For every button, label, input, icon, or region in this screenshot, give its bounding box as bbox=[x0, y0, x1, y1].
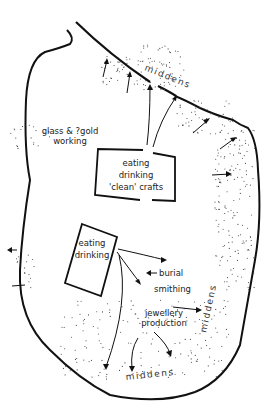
midden-dot bbox=[110, 77, 111, 78]
midden-dot bbox=[235, 168, 236, 169]
midden-dot bbox=[220, 182, 221, 183]
midden-dot bbox=[247, 228, 248, 229]
midden-dot bbox=[169, 84, 170, 85]
midden-dot bbox=[227, 191, 228, 192]
midden-dot bbox=[218, 226, 219, 227]
midden-dot bbox=[128, 342, 129, 343]
midden-dot bbox=[133, 305, 134, 306]
midden-dot bbox=[70, 370, 71, 371]
enclosure-boundary bbox=[20, 30, 260, 399]
midden-dot bbox=[238, 253, 239, 254]
midden-dot bbox=[147, 44, 148, 45]
midden-dot bbox=[38, 145, 39, 146]
midden-dot bbox=[228, 119, 229, 120]
midden-dot bbox=[117, 68, 118, 69]
midden-dot bbox=[237, 276, 238, 277]
midden-dot bbox=[24, 267, 25, 268]
midden-dot bbox=[194, 100, 195, 101]
midden-dot bbox=[224, 106, 225, 107]
midden-dot bbox=[170, 52, 171, 53]
midden-dot bbox=[10, 133, 11, 134]
midden-dot bbox=[162, 64, 163, 65]
midden-dot bbox=[231, 210, 232, 211]
midden-dot bbox=[28, 255, 29, 256]
midden-dot bbox=[232, 274, 233, 275]
midden-dot bbox=[230, 169, 231, 170]
midden-dot bbox=[234, 215, 235, 216]
midden-dot bbox=[224, 168, 225, 169]
midden-dot bbox=[205, 340, 206, 341]
midden-dot bbox=[206, 345, 207, 346]
midden-dot bbox=[169, 51, 170, 52]
midden-dot bbox=[137, 84, 138, 85]
midden-dot bbox=[116, 71, 117, 72]
midden-dot bbox=[191, 362, 192, 363]
midden-dot bbox=[182, 124, 183, 125]
midden-dot bbox=[211, 319, 212, 320]
midden-dot bbox=[85, 340, 86, 341]
midden-dot bbox=[236, 138, 237, 139]
midden-dot bbox=[201, 348, 202, 349]
midden-dot bbox=[222, 370, 223, 371]
midden-dot bbox=[221, 346, 222, 347]
midden-dot bbox=[227, 180, 228, 181]
midden-dot bbox=[137, 318, 138, 319]
midden-dot bbox=[226, 336, 227, 337]
midden-dot bbox=[216, 255, 217, 256]
midden-dot bbox=[123, 320, 124, 321]
midden-dot bbox=[119, 62, 120, 63]
midden-dot bbox=[177, 113, 178, 114]
midden-dot bbox=[35, 130, 36, 131]
midden-dot bbox=[248, 144, 249, 145]
midden-dot bbox=[102, 311, 103, 312]
midden-dot bbox=[222, 256, 223, 257]
midden-dot bbox=[81, 301, 82, 302]
midden-dot bbox=[214, 202, 215, 203]
midden-dot bbox=[221, 360, 222, 361]
midden-dot bbox=[243, 240, 244, 241]
midden-dot bbox=[242, 145, 243, 146]
midden-dot bbox=[254, 148, 255, 149]
midden-dot bbox=[64, 327, 65, 328]
midden-dot bbox=[252, 130, 253, 131]
midden-dot bbox=[33, 142, 34, 143]
midden-dot bbox=[246, 174, 247, 175]
midden-dot bbox=[225, 205, 226, 206]
midden-dot bbox=[32, 259, 33, 260]
midden-dot bbox=[244, 155, 245, 156]
midden-dot bbox=[238, 235, 239, 236]
midden-dot bbox=[218, 186, 219, 187]
midden-dot bbox=[240, 189, 241, 190]
midden-dot bbox=[224, 213, 225, 214]
midden-dot bbox=[224, 300, 225, 301]
midden-dot bbox=[146, 333, 147, 334]
midden-dot bbox=[243, 269, 244, 270]
midden-dot bbox=[143, 332, 144, 333]
midden-dot bbox=[18, 256, 19, 257]
midden-dot bbox=[228, 230, 229, 231]
midden-dot bbox=[160, 84, 161, 85]
midden-dot bbox=[159, 48, 160, 49]
midden-dot bbox=[228, 242, 229, 243]
midden-dot bbox=[207, 109, 208, 110]
midden-dot bbox=[31, 137, 32, 138]
midden-dot bbox=[143, 48, 144, 49]
midden-dot bbox=[251, 245, 252, 246]
midden-dot bbox=[224, 158, 225, 159]
midden-dot bbox=[109, 312, 110, 313]
midden-dot bbox=[106, 56, 107, 57]
midden-dot bbox=[233, 130, 234, 131]
midden-dot bbox=[198, 101, 199, 102]
midden-dot bbox=[169, 62, 170, 63]
midden-dot bbox=[200, 305, 201, 306]
midden-dot bbox=[64, 316, 65, 317]
midden-dot bbox=[253, 257, 254, 258]
midden-dot bbox=[180, 56, 181, 57]
midden-dot bbox=[243, 181, 244, 182]
midden-dot bbox=[14, 129, 15, 130]
midden-dot bbox=[171, 305, 172, 306]
midden-dot bbox=[158, 351, 159, 352]
midden-dot bbox=[83, 360, 84, 361]
midden-dot bbox=[248, 249, 249, 250]
midden-stippling bbox=[10, 44, 255, 379]
